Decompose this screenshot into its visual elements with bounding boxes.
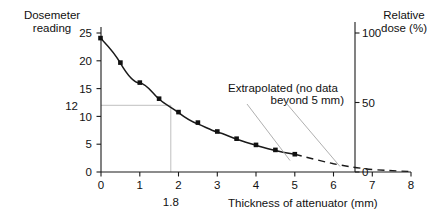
data-point [118, 60, 123, 65]
data-point [293, 152, 298, 157]
y-axis-left-tick-labels: 0 5 10 15 20 25 12 [65, 27, 92, 178]
x-axis-title: Thickness of attenuator (mm) [228, 197, 378, 209]
extrapolated-curve [295, 154, 411, 171]
guide-lines [101, 105, 171, 172]
data-point [157, 96, 162, 101]
y-tick-label-12-callout: 12 [65, 100, 78, 112]
data-point [254, 143, 259, 148]
extrapolated-annotation: Extrapolated (no data beyond 5 mm) [228, 82, 344, 106]
data-point [196, 120, 201, 125]
x-tick-label-3: 3 [214, 179, 220, 191]
extrapolated-annotation-line2: beyond 5 mm) [270, 94, 344, 106]
y-axis-left-ticks [97, 33, 102, 172]
extrapolated-annotation-line1: Extrapolated (no data [228, 82, 339, 94]
x-tick-label-1p8-callout: 1.8 [163, 196, 179, 208]
x-tick-label-4: 4 [253, 179, 260, 191]
measured-curve [101, 39, 295, 155]
y-axis-right-ticks [355, 33, 360, 172]
axis-titles: Thickness of attenuator (mm) [228, 197, 378, 209]
y-axis-right-title-group: Relativedose (%) [381, 9, 427, 34]
y-axis-left-title-group: Dosemeterreading [24, 9, 80, 34]
y-tick-label-10: 10 [79, 111, 92, 123]
y-right-tick-label-0: 0 [362, 166, 368, 178]
y-tick-label-20: 20 [79, 55, 92, 67]
y-tick-label-15: 15 [79, 83, 92, 95]
attenuation-chart: 0 5 10 15 20 25 12 0 1 2 3 4 5 [0, 0, 438, 220]
x-tick-label-2: 2 [175, 179, 181, 191]
y-axis-right-title-text: Relativedose (%) [381, 9, 427, 34]
annotation-leader-lines [247, 104, 340, 167]
y-right-tick-label-50: 50 [362, 97, 375, 109]
x-tick-label-7: 7 [369, 179, 375, 191]
x-tick-label-1: 1 [137, 179, 143, 191]
data-point [138, 80, 143, 85]
leader-line-left [247, 104, 290, 161]
y-right-tick-label-100: 100 [362, 27, 381, 39]
x-tick-label-5: 5 [292, 179, 298, 191]
x-tick-label-8: 8 [408, 179, 414, 191]
data-point [215, 129, 220, 134]
data-point [234, 136, 239, 141]
data-point [176, 110, 181, 115]
data-point-markers [98, 36, 297, 157]
data-point [98, 36, 103, 41]
chart-figure: 0 5 10 15 20 25 12 0 1 2 3 4 5 [0, 0, 438, 220]
y-tick-label-5: 5 [86, 138, 92, 150]
y-axis-left-title-text: Dosemeterreading [24, 9, 80, 34]
x-tick-label-0: 0 [98, 179, 104, 191]
y-tick-label-25: 25 [79, 27, 92, 39]
data-point [273, 148, 278, 153]
leader-line-right [287, 104, 340, 167]
y-tick-label-0: 0 [86, 166, 92, 178]
x-tick-label-6: 6 [330, 179, 336, 191]
y-axis-right-tick-labels: 0 50 100 [362, 27, 381, 178]
